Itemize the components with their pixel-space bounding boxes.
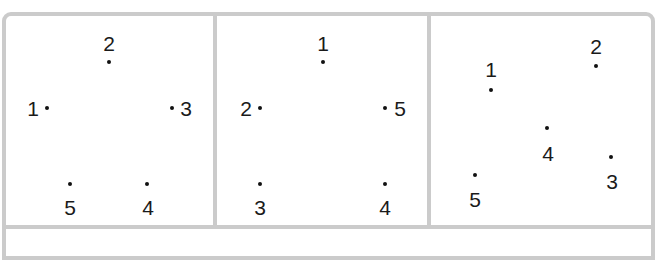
point-label: 2 — [103, 33, 115, 54]
point-dot — [609, 155, 613, 159]
point-label: 4 — [142, 197, 154, 218]
point-dot — [545, 126, 549, 130]
point-label: 5 — [64, 197, 76, 218]
point-dot — [383, 106, 387, 110]
point-dot — [258, 182, 262, 186]
point-dot — [489, 88, 493, 92]
point-label: 1 — [485, 59, 497, 80]
point-label: 3 — [180, 98, 192, 119]
point-dot — [107, 60, 111, 64]
point-label: 5 — [469, 189, 481, 210]
panel-divider-1 — [213, 12, 217, 229]
point-label: 3 — [254, 197, 266, 218]
point-dot — [594, 64, 598, 68]
point-dot — [68, 182, 72, 186]
point-dot — [321, 60, 325, 64]
point-dot — [383, 182, 387, 186]
point-label: 3 — [606, 171, 618, 192]
point-dot — [170, 106, 174, 110]
point-label: 4 — [379, 197, 391, 218]
point-dot — [258, 106, 262, 110]
panel-divider-2 — [427, 12, 431, 229]
point-label: 1 — [27, 98, 39, 119]
point-dot — [145, 182, 149, 186]
point-dot — [473, 173, 477, 177]
point-label: 5 — [394, 98, 406, 119]
frame-bottom-divider — [2, 225, 655, 229]
point-label: 4 — [542, 143, 554, 164]
point-dot — [45, 106, 49, 110]
point-label: 2 — [590, 36, 602, 57]
point-label: 2 — [240, 98, 252, 119]
point-label: 1 — [317, 33, 329, 54]
